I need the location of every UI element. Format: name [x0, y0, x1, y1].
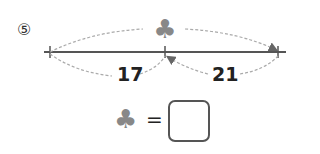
club-icon-equation: ♣ — [114, 106, 137, 132]
lower-arc-21-left — [168, 57, 208, 74]
lower-arc-17-left — [50, 54, 112, 76]
upper-arc-left — [50, 29, 143, 52]
upper-arc-right — [185, 29, 276, 50]
segment-label-17: 17 — [117, 63, 143, 85]
segment-label-21: 21 — [212, 63, 238, 85]
answer-box[interactable] — [168, 100, 210, 142]
equals-sign: = — [146, 107, 163, 131]
lower-arc-17-right — [140, 56, 165, 74]
club-icon: ♣ — [153, 14, 176, 44]
lower-arc-21-right — [240, 56, 278, 74]
